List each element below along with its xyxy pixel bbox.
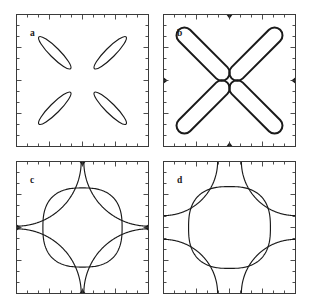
panel-frame: [17, 162, 149, 294]
panel-label-d: d: [177, 175, 183, 185]
panel-b: b: [163, 14, 296, 147]
curves-group: [35, 33, 129, 127]
panel-frame: [164, 15, 296, 147]
panel-d: d: [163, 161, 296, 294]
axis-ticks: [17, 15, 149, 147]
panel-label-b: b: [177, 28, 182, 38]
panel-frame: [17, 15, 149, 147]
contour-corner-arc-bottom-right: [84, 229, 149, 294]
figure-root: a b c d: [0, 0, 313, 302]
panel-plot-c: c: [16, 161, 149, 294]
contour-pocket-lower-left: [35, 89, 74, 128]
contour-stadium-lower-left: [173, 77, 233, 137]
contour-pocket-upper-left: [35, 33, 74, 72]
curves-group: [164, 162, 296, 294]
contour-stadium-upper-right: [226, 24, 286, 84]
axis-ticks: [164, 162, 296, 294]
panel-c: c: [16, 161, 149, 294]
contour-pocket-lower-right: [91, 89, 130, 128]
panel-frame: [164, 162, 296, 294]
axis-ticks: [164, 15, 296, 147]
panel-plot-b: b: [163, 14, 296, 147]
contour-central-squircle: [189, 187, 271, 269]
axis-ticks: [17, 162, 149, 294]
panel-label-c: c: [30, 175, 34, 185]
panel-plot-a: a: [16, 14, 149, 147]
contour-corner-arc-bottom-left: [17, 229, 82, 294]
curves-group: [17, 162, 149, 294]
contour-corner-arc-top-right: [84, 162, 149, 227]
panel-label-a: a: [30, 28, 35, 38]
contour-corner-arc-top-left: [17, 162, 82, 227]
contour-central-squircle: [43, 188, 122, 267]
panel-a: a: [16, 14, 149, 147]
curves-group: [164, 15, 296, 147]
contour-stadium-lower-right: [226, 77, 286, 137]
panel-plot-d: d: [163, 161, 296, 294]
contour-pocket-upper-right: [91, 33, 130, 72]
